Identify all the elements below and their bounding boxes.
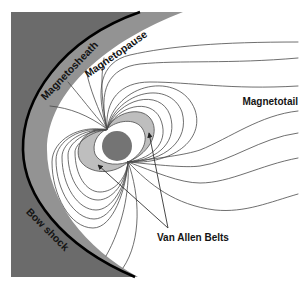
magnetosphere-diagram: Magnetosheath Magnetopause Bow shock Mag… [0,0,308,289]
magnetotail-line-lower [128,162,298,211]
label-van-allen-belts: Van Allen Belts [157,232,229,243]
magnetotail-line-lower [128,133,298,167]
earth [102,131,132,161]
magnetotail-line-lower [128,158,298,183]
label-magnetotail: Magnetotail [242,96,298,107]
